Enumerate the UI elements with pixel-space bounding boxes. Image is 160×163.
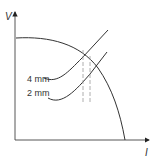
arc-line-2mm <box>48 52 107 100</box>
arc-line-4mm <box>44 30 108 80</box>
label-2mm: 2 mm <box>27 88 50 98</box>
diagram-canvas: V I 4 mm 2 mm <box>0 0 160 163</box>
y-axis-label: V <box>5 11 13 22</box>
x-axis-label: I <box>145 147 148 158</box>
label-4mm: 4 mm <box>27 74 50 84</box>
